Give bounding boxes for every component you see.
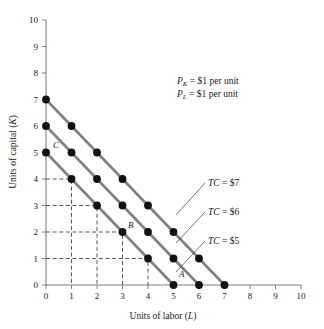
data-point-tc7-1[interactable] <box>68 122 76 130</box>
series-label-tc5: TC = $5 <box>208 236 239 246</box>
data-point-tc7-2[interactable] <box>93 149 101 157</box>
data-point-tc6-5[interactable] <box>170 255 178 263</box>
x-tick-label-4: 4 <box>146 291 151 301</box>
data-point-tc6-1[interactable] <box>68 149 76 157</box>
series-label-tc7: TC = $7 <box>208 178 239 188</box>
y-tick-label-1: 1 <box>34 254 39 264</box>
data-point-tc7-3[interactable] <box>119 175 127 183</box>
data-point-tc7-7[interactable] <box>221 281 229 289</box>
x-tick-label-2: 2 <box>95 291 100 301</box>
isocost-chart-figure: 0 1 2 3 4 5 6 7 8 9 10 0 1 2 <box>0 0 324 329</box>
y-tick-label-8: 8 <box>34 68 39 78</box>
y-tick-label-4: 4 <box>34 174 39 184</box>
point-label-a: A <box>178 269 185 279</box>
y-axis-title: Units of capital (K) <box>8 115 19 189</box>
price-annotations: PK = $1 per unit PL = $1 per unit <box>176 76 239 101</box>
isocost-line-tc5[interactable] <box>46 153 174 286</box>
y-tick-label-3: 3 <box>34 201 39 211</box>
leader-line-tc7 <box>176 183 205 215</box>
annotation-price-capital: PK = $1 per unit <box>176 76 239 88</box>
point-label-c: C <box>53 140 60 150</box>
data-point-tc5-1[interactable] <box>68 175 76 183</box>
data-point-tc6-2[interactable] <box>93 175 101 183</box>
data-point-tc5-3[interactable] <box>119 228 127 236</box>
chart-axes <box>46 20 301 285</box>
point-label-b: B <box>128 220 134 230</box>
data-point-tc6-6[interactable] <box>195 281 203 289</box>
data-point-tc5-2[interactable] <box>93 202 101 210</box>
x-tick-label-9: 9 <box>273 291 278 301</box>
y-tick-label-7: 7 <box>34 95 39 105</box>
data-point-tc7-0[interactable] <box>42 96 50 104</box>
data-point-tc6-0[interactable] <box>42 122 50 130</box>
x-tick-label-1: 1 <box>69 291 74 301</box>
data-point-tc5-4[interactable] <box>144 255 152 263</box>
data-point-tc7-5[interactable] <box>170 228 178 236</box>
y-tick-label-5: 5 <box>34 148 39 158</box>
y-tick-label-9: 9 <box>34 42 39 52</box>
data-point-tc7-4[interactable] <box>144 202 152 210</box>
y-tick-label-0: 0 <box>34 280 39 290</box>
y-tick-label-2: 2 <box>34 227 39 237</box>
series-label-tc6: TC = $6 <box>208 207 239 217</box>
y-tick-label-6: 6 <box>34 121 39 131</box>
guide-line-3 <box>46 232 123 285</box>
leader-line-tc6 <box>176 212 205 243</box>
x-tick-label-10: 10 <box>297 291 307 301</box>
data-point-tc6-3[interactable] <box>119 202 127 210</box>
x-tick-label-6: 6 <box>197 291 202 301</box>
guide-lines-group <box>46 179 148 285</box>
isocost-chart-canvas: 0 1 2 3 4 5 6 7 8 9 10 0 1 2 <box>0 0 324 329</box>
data-point-tc5-0[interactable] <box>42 149 50 157</box>
x-tick-label-8: 8 <box>248 291 253 301</box>
data-point-tc7-6[interactable] <box>195 255 203 263</box>
x-axis-title: Units of labor (L) <box>130 311 197 322</box>
x-tick-label-5: 5 <box>171 291 176 301</box>
data-point-tc5-5[interactable] <box>170 281 178 289</box>
x-tick-label-0: 0 <box>44 291 49 301</box>
x-tick-label-7: 7 <box>222 291 227 301</box>
data-point-tc6-4[interactable] <box>144 228 152 236</box>
annotation-price-labor: PL = $1 per unit <box>176 89 238 101</box>
y-tick-label-10: 10 <box>29 15 39 25</box>
x-tick-label-3: 3 <box>120 291 125 301</box>
